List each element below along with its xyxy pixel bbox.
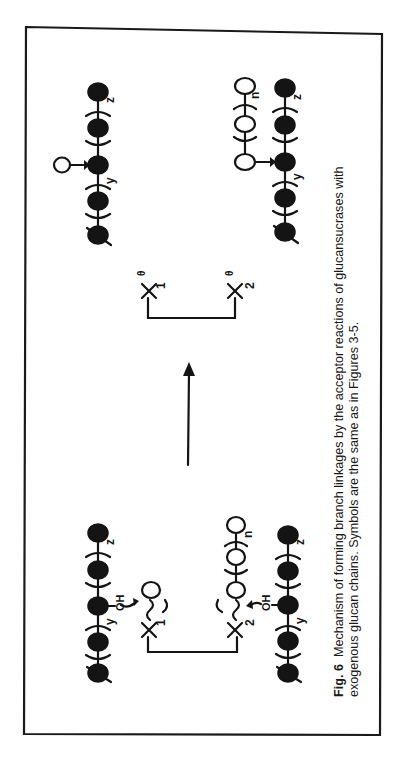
charge-theta: θ: [136, 271, 147, 276]
arrow-shaft: [188, 372, 189, 465]
subscript-y: y: [293, 617, 307, 624]
glucose-filled: [275, 189, 295, 207]
product-1-branched-chain: z y: [54, 83, 117, 245]
glucose-filled: [278, 632, 298, 650]
glucose-filled: [275, 116, 295, 134]
subscript-2: 2: [243, 282, 257, 289]
reactant-acceptor-chain-1: OH z y: [86, 524, 126, 682]
glucose-filled: [88, 633, 108, 651]
subscript-1: 1: [154, 619, 168, 626]
glucose-open: [227, 517, 245, 533]
glucose-open: [142, 582, 160, 598]
enzyme-glucosyl-intermediate: 1 2 n: [121, 517, 261, 652]
glucose-filled: [88, 561, 108, 579]
glucose-filled-acceptor: [278, 596, 298, 614]
glucose-open: [235, 116, 255, 132]
glucose-open: [235, 154, 255, 170]
glucose-filled: [275, 223, 295, 241]
glucose-filled: [88, 119, 108, 137]
electron-arrow: [217, 600, 222, 612]
subscript-z: z: [103, 539, 117, 545]
enzyme-bracket: [148, 298, 235, 318]
glucose-filled-branch-point: [275, 153, 295, 171]
glucose-filled: [88, 226, 108, 244]
electron-arrow: [163, 600, 167, 612]
glucose-filled: [88, 192, 108, 210]
glucose-filled: [88, 664, 108, 682]
x2-glucosyl-bond: [233, 600, 239, 620]
caption-line-2: exogenous glucan chains. Symbols are the…: [347, 322, 361, 697]
figure-label: Fig. 6: [332, 664, 346, 697]
x1-glucosyl-bond: [147, 600, 153, 620]
figure-caption: Fig. 6Mechanism of forming branch linkag…: [332, 166, 361, 697]
glucose-filled-branch-point: [88, 156, 108, 174]
glucose-open: [54, 158, 70, 173]
reaction-arrow: [183, 362, 195, 465]
subscript-z: z: [290, 94, 304, 100]
subscript-z: z: [103, 97, 117, 103]
glucose-filled: [278, 562, 298, 580]
subscript-n: n: [248, 92, 262, 99]
product-2-branched-chain: z y n: [234, 78, 304, 243]
nucleophile-arrowhead: [133, 598, 139, 606]
hydroxyl-label: OH: [260, 594, 272, 611]
glucose-open: [227, 582, 245, 598]
glucose-filled: [278, 664, 298, 682]
hydroxyl-label: OH: [114, 594, 126, 611]
subscript-2: 2: [243, 619, 257, 626]
free-enzyme-nucleophiles: 1 2 θ θ: [136, 271, 257, 318]
glucose-open: [235, 78, 255, 94]
charge-theta: θ: [224, 271, 235, 276]
subscript-1: 1: [154, 282, 168, 289]
enzyme-bracket: [148, 637, 237, 652]
figure-frame: [24, 27, 382, 735]
caption-line-1: Fig. 6Mechanism of forming branch linkag…: [332, 166, 346, 697]
arrow-head: [183, 362, 195, 376]
glucose-filled-acceptor: [88, 597, 108, 615]
subscript-y: y: [290, 173, 304, 180]
figure-canvas: z y z y n 1 2 θ θ: [0, 0, 400, 762]
glucose-open: [227, 549, 245, 565]
caption-text-1: Mechanism of forming branch linkages by …: [332, 166, 346, 657]
nucleophile-arrowhead: [246, 600, 253, 609]
reactant-acceptor-chain-2: OH z y: [260, 526, 307, 682]
subscript-z: z: [293, 539, 307, 545]
subscript-n: n: [241, 531, 255, 538]
subscript-y: y: [103, 618, 117, 625]
subscript-y: y: [103, 177, 117, 184]
